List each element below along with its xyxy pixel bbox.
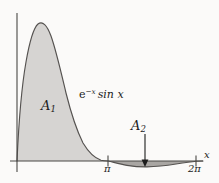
figure-container: A1 A2 e−xsin x π 2π x: [0, 0, 219, 183]
function-exponent: −x: [86, 87, 96, 96]
area-label-a1: A1: [41, 99, 56, 114]
area-label-a1-subscript: 1: [50, 104, 55, 114]
curve-function-label: e−xsin x: [79, 88, 124, 100]
area-label-a1-letter: A: [41, 98, 50, 113]
x-tick-label-pi: π: [104, 164, 111, 174]
area-label-a2-letter: A: [131, 118, 140, 133]
function-sin-term: sin x: [98, 88, 124, 101]
x-axis-label: x: [204, 150, 210, 160]
area-label-a2: A2: [131, 119, 146, 134]
x-tick-label-2pi: 2π: [188, 164, 201, 174]
area-label-a2-subscript: 2: [140, 124, 145, 134]
